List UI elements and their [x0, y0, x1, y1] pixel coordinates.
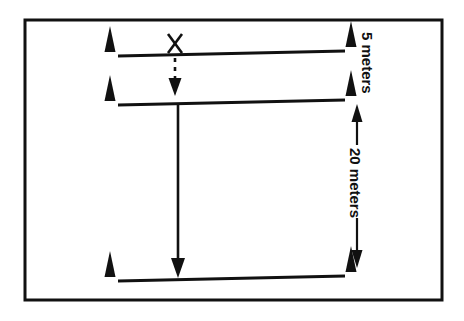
- diagram-svg: [0, 0, 464, 321]
- measure-20-meters-label: 20 meters: [347, 148, 364, 218]
- diagram-background: [0, 0, 464, 321]
- diagram-canvas: 5 meters 20 meters: [0, 0, 464, 321]
- measure-5-meters-label: 5 meters: [359, 32, 376, 94]
